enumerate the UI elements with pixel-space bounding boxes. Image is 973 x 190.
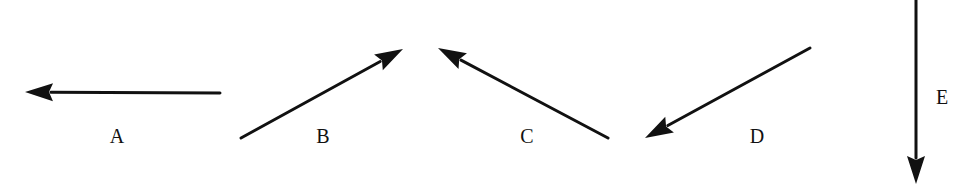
arrowhead-icon [25, 83, 53, 101]
arrow-d-down-left [645, 48, 810, 138]
arrowhead-icon [374, 49, 403, 70]
label-b: B [316, 126, 329, 146]
label-c: C [520, 126, 533, 146]
arrow-a-left [25, 83, 220, 101]
label-e: E [936, 87, 948, 107]
arrowhead-icon [645, 117, 674, 138]
arrow-e-down [907, 0, 925, 184]
arrow-shaft [51, 92, 220, 93]
arrowhead-icon [907, 156, 925, 184]
arrow-shaft [668, 48, 810, 126]
arrowhead-icon [438, 48, 467, 69]
label-a: A [110, 126, 124, 146]
label-d: D [750, 126, 764, 146]
arrow-shaft [241, 62, 380, 138]
arrow-shaft [461, 60, 608, 138]
vector-diagram [0, 0, 973, 190]
